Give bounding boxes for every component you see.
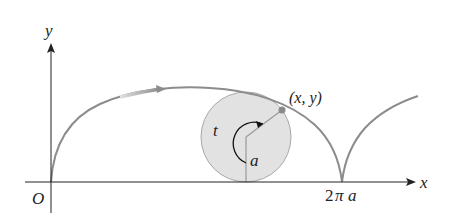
point-marker [279, 107, 286, 114]
cusp-label-a: a [348, 186, 357, 205]
cycloid-diagram: y x O (x, y) t a 2 π a [0, 0, 455, 221]
x-axis-label: x [419, 173, 428, 192]
direction-arrow [120, 89, 160, 97]
y-axis-label: y [43, 21, 53, 40]
cusp-label-number: 2 [325, 186, 334, 205]
direction-arrowhead-icon [156, 85, 166, 93]
cusp-label-pi: π [335, 186, 344, 205]
cusp-label: 2 π a [325, 186, 357, 205]
radius-label: a [250, 151, 259, 170]
origin-label: O [32, 189, 44, 208]
point-label: (x, y) [289, 89, 322, 107]
